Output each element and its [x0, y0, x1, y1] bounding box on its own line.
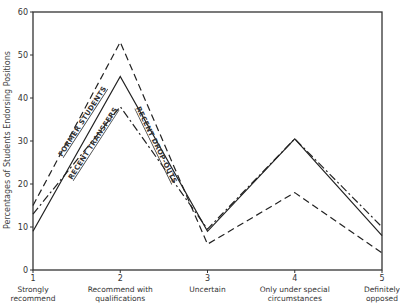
y-axis-label: Percentages of Students Endorsing Positi…: [3, 51, 12, 229]
x-category-label: Strongly: [17, 285, 49, 294]
series-label: RECENT TRANSFERS: [67, 106, 120, 181]
x-category-label: Uncertain: [189, 285, 226, 294]
x-tick-label: 2: [118, 274, 123, 283]
x-tick-label: 1: [30, 274, 35, 283]
x-axis: 1Stronglyrecommend2Recommend withqualifi…: [11, 270, 400, 303]
y-tick-label: 50: [18, 51, 28, 60]
series-label: RECENT DROP-OUTS: [134, 105, 178, 184]
x-category-label: Definitely: [364, 285, 400, 294]
y-tick-label: 30: [18, 137, 28, 146]
x-category-label: Only under special: [260, 285, 330, 294]
x-tick-label: 5: [379, 274, 384, 283]
y-tick-label: 20: [18, 180, 28, 189]
y-tick-label: 40: [18, 94, 28, 103]
x-category-label: qualifications: [95, 294, 145, 303]
series-line: [33, 107, 382, 230]
x-category-label: opposed: [366, 294, 398, 303]
x-tick-label: 3: [205, 274, 210, 283]
line-chart: 0102030405060 1Stronglyrecommend2Recomme…: [0, 0, 400, 306]
x-tick-label: 4: [292, 274, 297, 283]
series-label: FORMER STUDENTS: [57, 85, 108, 158]
y-tick-label: 10: [18, 223, 28, 232]
x-category-label: Recommend with: [88, 285, 153, 294]
x-category-label: recommend: [11, 294, 56, 303]
y-tick-label: 60: [18, 8, 28, 17]
x-category-label: circumstances: [268, 294, 322, 303]
y-tick-label: 0: [23, 266, 28, 275]
y-axis: 0102030405060: [18, 8, 33, 275]
